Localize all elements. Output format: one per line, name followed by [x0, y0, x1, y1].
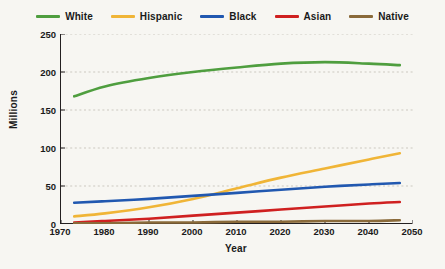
legend-swatch-black: [200, 15, 224, 18]
legend-swatch-hispanic: [111, 15, 135, 18]
legend-label-native: Native: [378, 11, 409, 22]
x-tick-1990: 1990: [131, 226, 165, 237]
series-line-white: [74, 62, 400, 96]
series-lines: [74, 62, 400, 223]
x-tick-2030: 2030: [307, 226, 341, 237]
plot-svg: [61, 34, 413, 224]
x-tick-2040: 2040: [351, 226, 385, 237]
x-tick-2000: 2000: [175, 226, 209, 237]
x-tick-2050: 2050: [395, 226, 429, 237]
x-tick-2020: 2020: [263, 226, 297, 237]
legend-item-black: Black: [200, 11, 256, 22]
y-tick-200: 200: [30, 67, 56, 78]
legend-label-white: White: [65, 11, 93, 22]
x-tick-2010: 2010: [219, 226, 253, 237]
legend-label-asian: Asian: [304, 11, 332, 22]
legend-item-native: Native: [349, 11, 409, 22]
y-tick-100: 100: [30, 143, 56, 154]
y-tick-150: 150: [30, 105, 56, 116]
x-tick-1970: 1970: [43, 226, 77, 237]
plot-area: [60, 34, 412, 224]
legend-item-white: White: [36, 11, 93, 22]
x-axis-tick-labels: 1970 1980 1990 2000 2010 2020 2030 2040 …: [60, 226, 412, 240]
legend-swatch-white: [36, 15, 60, 18]
y-axis-tick-labels: 250 200 150 100 50 0: [24, 34, 56, 224]
legend-swatch-asian: [275, 15, 299, 18]
x-axis-title: Year: [60, 243, 412, 254]
y-axis-title: Millions: [8, 75, 19, 145]
chart-legend: White Hispanic Black Asian Native: [0, 6, 445, 26]
y-tick-250: 250: [30, 29, 56, 40]
legend-item-asian: Asian: [275, 11, 332, 22]
legend-label-hispanic: Hispanic: [140, 11, 182, 22]
y-tick-50: 50: [30, 181, 56, 192]
legend-item-hispanic: Hispanic: [111, 11, 182, 22]
population-projection-chart: White Hispanic Black Asian Native Millio…: [0, 0, 445, 269]
x-tick-1980: 1980: [87, 226, 121, 237]
legend-swatch-native: [349, 15, 373, 18]
legend-label-black: Black: [229, 11, 256, 22]
